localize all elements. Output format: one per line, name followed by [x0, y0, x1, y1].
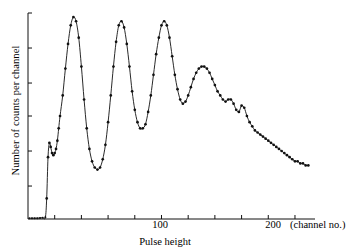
- data-point: [57, 127, 60, 130]
- data-point: [152, 73, 155, 76]
- data-point: [206, 67, 209, 70]
- data-point: [77, 36, 80, 39]
- data-point: [34, 217, 36, 219]
- data-point: [75, 20, 78, 23]
- data-point: [99, 166, 102, 169]
- spectrum-curve: [29, 17, 308, 219]
- data-point: [224, 100, 227, 103]
- data-point: [93, 166, 96, 169]
- data-point: [125, 43, 128, 46]
- data-point: [168, 36, 171, 39]
- data-point: [272, 143, 275, 146]
- data-point: [240, 104, 243, 107]
- data-point: [275, 146, 278, 149]
- data-point: [230, 98, 233, 101]
- data-point: [85, 127, 88, 130]
- data-point: [42, 217, 44, 219]
- data-point: [101, 158, 104, 161]
- data-point: [280, 150, 283, 153]
- data-point: [182, 102, 185, 105]
- data-point: [254, 129, 257, 132]
- data-point: [83, 98, 86, 101]
- data-point: [61, 94, 64, 97]
- data-point: [211, 78, 214, 81]
- spectrum-plot: [0, 0, 360, 251]
- data-point: [109, 94, 112, 97]
- data-point: [139, 127, 142, 130]
- data-point: [163, 20, 166, 23]
- data-point: [147, 111, 150, 114]
- data-point: [112, 65, 115, 68]
- data-point: [200, 65, 203, 68]
- figure-root: Number of counts per channel 100 200 (ch…: [0, 0, 360, 251]
- data-point: [160, 24, 163, 27]
- data-point: [31, 217, 33, 219]
- data-point: [53, 152, 56, 155]
- data-point: [165, 24, 168, 27]
- data-point: [67, 43, 70, 46]
- data-point: [214, 84, 217, 87]
- data-point: [48, 141, 51, 144]
- data-point: [59, 115, 62, 118]
- data-point: [256, 131, 259, 134]
- data-point: [222, 98, 225, 101]
- data-point: [107, 121, 110, 124]
- data-point: [44, 216, 46, 218]
- x-tick-label-200: 200: [252, 219, 294, 230]
- data-point: [36, 217, 38, 219]
- data-point: [235, 108, 238, 111]
- data-point: [179, 98, 182, 101]
- data-point: [115, 40, 118, 43]
- data-point: [47, 156, 50, 159]
- data-point: [56, 139, 59, 142]
- data-point: [288, 156, 291, 159]
- data-point: [238, 111, 241, 114]
- data-point: [64, 67, 67, 70]
- data-point: [128, 65, 131, 68]
- data-point: [45, 197, 48, 200]
- data-point: [131, 90, 134, 93]
- x-axis-title-wrap: Pulse height: [0, 231, 360, 249]
- data-point: [243, 106, 246, 109]
- data-point: [141, 127, 144, 130]
- data-point: [296, 160, 299, 163]
- data-point: [294, 160, 297, 163]
- data-point: [232, 102, 235, 105]
- data-point: [304, 164, 307, 167]
- data-point: [117, 24, 120, 27]
- data-point: [104, 143, 107, 146]
- data-point: [246, 115, 249, 118]
- data-point: [259, 133, 262, 136]
- data-point: [291, 158, 294, 161]
- data-point: [176, 88, 179, 91]
- data-point: [302, 162, 305, 165]
- data-point: [216, 90, 219, 93]
- data-point: [195, 71, 198, 74]
- y-axis-title: Number of counts per channel: [10, 16, 21, 206]
- axes-group: [28, 13, 315, 219]
- data-point: [251, 125, 254, 128]
- data-point: [270, 141, 273, 144]
- data-point: [80, 65, 83, 68]
- data-point: [208, 71, 211, 74]
- data-point: [171, 55, 174, 58]
- data-point: [278, 148, 281, 151]
- data-point: [144, 123, 147, 126]
- x-tick-label-100: 100: [140, 219, 180, 230]
- data-point: [187, 94, 190, 97]
- data-point: [91, 160, 94, 163]
- data-point: [286, 154, 289, 157]
- data-point: [49, 146, 52, 149]
- data-point: [307, 164, 310, 167]
- data-point: [248, 121, 251, 124]
- data-point: [155, 53, 158, 56]
- x-axis-title: Pulse height: [139, 236, 191, 247]
- data-point: [136, 121, 139, 124]
- data-point: [123, 26, 126, 29]
- data-point: [157, 36, 160, 39]
- data-point: [283, 152, 286, 155]
- data-point: [173, 73, 176, 76]
- data-point: [192, 78, 195, 81]
- data-point: [133, 108, 136, 111]
- data-point: [203, 65, 206, 68]
